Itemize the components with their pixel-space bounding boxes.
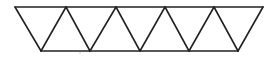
triangle-edges <box>15 7 263 51</box>
diagonal-edge <box>66 7 90 51</box>
speck-mark <box>79 52 80 53</box>
diagonal-edge <box>15 7 41 51</box>
diagonal-edge <box>116 7 140 51</box>
diagonal-edge <box>140 7 165 51</box>
diagonal-edge <box>41 7 66 51</box>
triangle-strip-diagram <box>0 0 277 57</box>
diagonal-edge <box>214 7 238 51</box>
diagonal-edge <box>238 7 263 51</box>
diagonal-edge <box>189 7 214 51</box>
diagonal-edge <box>90 7 116 51</box>
diagonal-edge <box>165 7 189 51</box>
